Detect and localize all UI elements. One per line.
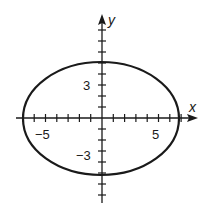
x-tick-label-5: 5 [152,127,159,142]
ellipse-graph: x y −5 5 3 −3 [0,0,204,208]
y-tick-label-3: 3 [83,78,90,93]
y-axis-label: y [107,12,116,28]
x-axis-label: x [188,99,197,115]
x-tick-label-neg5: −5 [35,127,50,142]
y-tick-label-neg3: −3 [76,148,91,163]
x-axis [16,114,198,122]
